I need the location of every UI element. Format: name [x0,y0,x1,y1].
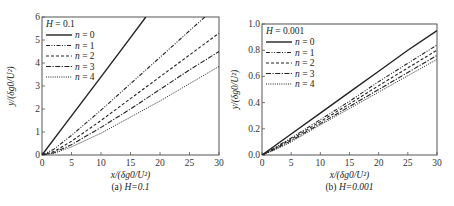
legend-label-n4: n = 4 [75,72,95,82]
series-line-n1 [42,17,205,155]
chart-b-svg: 0510152025300.00.20.40.60.81.0x/(δg0/U²)… [230,0,454,206]
series-line-n0 [262,31,437,155]
x-tick-label: 20 [374,158,384,168]
y-tick-label: 2 [35,104,40,114]
y-tick-label: 4 [35,58,40,68]
x-tick-label: 30 [214,158,224,168]
y-tick-label: 0.4 [248,98,260,108]
series-group [262,31,437,155]
legend-label-n3: n = 3 [295,69,315,79]
caption-param: H=0.1 [123,182,149,192]
x-tick-label: 0 [40,158,45,168]
legend-label-n4: n = 4 [295,79,315,89]
x-tick-label: 20 [155,158,165,168]
y-tick-label: 1.0 [248,19,260,29]
chart-caption: (b) H=0.001 [325,182,373,193]
y-tick-label: 0.8 [248,45,260,55]
y-axis-title: y/(δg0/U²) [230,70,241,110]
legend-label-n0: n = 0 [295,37,315,47]
y-tick-label: 0 [35,150,40,160]
legend-label-n2: n = 2 [75,51,95,61]
legend-label-n3: n = 3 [75,62,95,72]
chart-panel-a: 0510152025300123456x/(δg0/U²)y/(δg0/U²)(… [0,0,230,206]
x-tick-label: 5 [289,158,294,168]
x-tick-label: 5 [69,158,74,168]
series-line-n3 [262,55,437,155]
y-tick-label: 6 [35,12,40,22]
caption-prefix: (a) [111,182,124,193]
y-tick-label: 3 [35,81,40,91]
legend-title: H = 0.1 [45,19,75,29]
y-tick-label: 5 [35,35,40,45]
chart-caption: (a) H=0.1 [111,182,149,193]
x-axis-title: x/(δg0/U²) [110,170,150,181]
y-axis-title: y/(δg0/U²) [6,66,17,106]
x-axis-title: x/(δg0/U²) [329,170,369,181]
chart-panel-b: 0510152025300.00.20.40.60.81.0x/(δg0/U²)… [230,0,454,206]
legend-label-n0: n = 0 [75,30,95,40]
caption-prefix: (b) [325,182,338,193]
chart-a-svg: 0510152025300123456x/(δg0/U²)y/(δg0/U²)(… [0,0,230,206]
x-tick-label: 10 [96,158,106,168]
y-tick-label: 0.0 [248,150,260,160]
legend-label-n2: n = 2 [295,58,315,68]
x-tick-label: 15 [345,158,355,168]
series-group [42,17,219,155]
series-line-n1 [262,45,437,155]
y-tick-label: 1 [35,127,40,137]
x-tick-label: 15 [126,158,136,168]
x-tick-label: 10 [316,158,326,168]
series-line-n4 [42,66,219,155]
x-tick-label: 30 [432,158,442,168]
x-tick-label: 25 [403,158,413,168]
series-line-n2 [262,50,437,155]
legend-label-n1: n = 1 [75,41,95,51]
legend-title: H = 0.001 [265,26,305,36]
legend-label-n1: n = 1 [295,48,315,58]
y-tick-label: 0.2 [248,124,260,134]
series-line-n2 [42,33,219,155]
x-tick-label: 0 [260,158,265,168]
caption-param: H=0.001 [338,182,374,192]
y-tick-label: 0.6 [248,71,260,81]
x-tick-label: 25 [185,158,195,168]
